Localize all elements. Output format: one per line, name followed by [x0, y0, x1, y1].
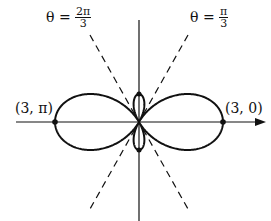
label-theta-pi-over-3: θ = π3 [190, 6, 228, 29]
theta-text: θ = [46, 9, 71, 25]
denominator: 3 [75, 18, 91, 29]
label-theta-2pi-over-3: θ = 2π3 [46, 6, 91, 29]
point-top [137, 92, 142, 97]
fraction: 2π3 [75, 6, 91, 29]
point-3-0 [220, 119, 226, 125]
point-3-pi [52, 119, 58, 125]
theta-text: θ = [190, 9, 215, 25]
label-point-3-0: (3, 0) [225, 100, 263, 116]
x-axis-arrow-icon [255, 118, 266, 126]
denominator: 3 [219, 18, 228, 29]
label-point-3-pi: (3, π) [15, 100, 53, 116]
fraction: π3 [219, 6, 228, 29]
point-bottom [137, 148, 142, 153]
